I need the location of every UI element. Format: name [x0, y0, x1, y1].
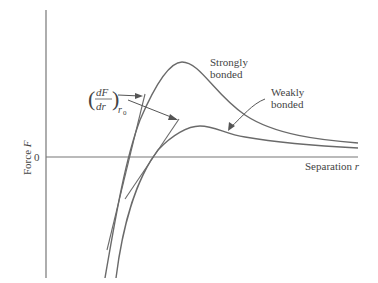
derivative-annotation: ( dF dr ) r 0: [88, 86, 127, 117]
zero-tick-label: 0: [34, 151, 40, 163]
derivative-numerator: dF: [96, 86, 109, 98]
arrowhead-icon: [228, 122, 235, 131]
weakly-bonded-label-line1: Weakly: [271, 86, 305, 98]
derivative-subscript-index: 0: [123, 109, 127, 117]
force-separation-diagram: Strongly bonded Weakly bonded ( dF dr ) …: [0, 0, 378, 283]
tangent-line-weak: [125, 119, 179, 199]
weakly-bonded-curve: [116, 126, 358, 278]
derivative-denominator: dr: [96, 100, 107, 112]
svg-text:(: (: [88, 86, 95, 111]
annotation-arrow-weak: [128, 100, 176, 119]
arrowhead-icon: [168, 114, 178, 120]
weakly-bonded-label-line2: bonded: [271, 98, 304, 110]
derivative-subscript: r: [118, 104, 122, 115]
x-axis-label: Separation r: [305, 160, 360, 172]
arrowhead-icon: [135, 93, 143, 99]
strongly-bonded-label-line1: Strongly: [210, 56, 248, 68]
y-axis-label: Force F: [21, 140, 33, 175]
strongly-bonded-label-line2: bonded: [210, 68, 243, 80]
